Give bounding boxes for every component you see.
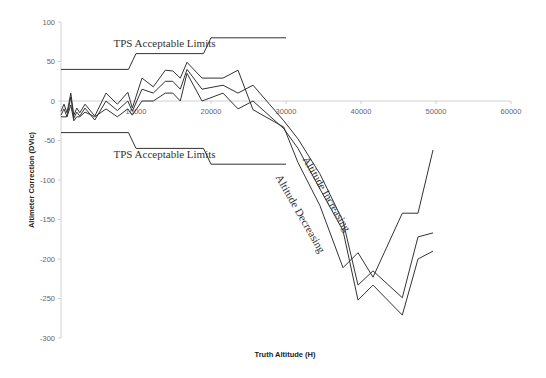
x-tick-label: 50000 [426, 107, 447, 116]
y-tick-label: -150 [40, 215, 55, 224]
y-tick-label: -50 [44, 136, 55, 145]
line-chart: 100500-50-100-150-200-250-30010000200003… [0, 0, 546, 378]
annotation-1: TPS Acceptable Limits [114, 148, 216, 160]
x-tick-label: 40000 [351, 107, 372, 116]
y-tick-label: 0 [51, 97, 55, 106]
y-tick-label: -200 [40, 255, 55, 264]
y-tick-label: -300 [40, 334, 55, 343]
y-tick-label: -250 [40, 294, 55, 303]
x-axis-title: Truth Altitude (H) [255, 350, 316, 359]
y-tick-label: -100 [40, 176, 55, 185]
x-tick-label: 20000 [201, 107, 222, 116]
y-axis-title: Altimeter Correction (DVic) [27, 131, 36, 228]
series-line-2 [61, 62, 433, 277]
y-tick-label: 100 [42, 18, 55, 27]
annotation-0: TPS Acceptable Limits [114, 37, 216, 49]
annotations: TPS Acceptable LimitsTPS Acceptable Limi… [114, 37, 354, 255]
x-tick-label: 60000 [501, 107, 522, 116]
series-lines [61, 38, 433, 315]
x-tick-label: 10000 [126, 107, 147, 116]
y-tick-label: 50 [47, 57, 55, 66]
